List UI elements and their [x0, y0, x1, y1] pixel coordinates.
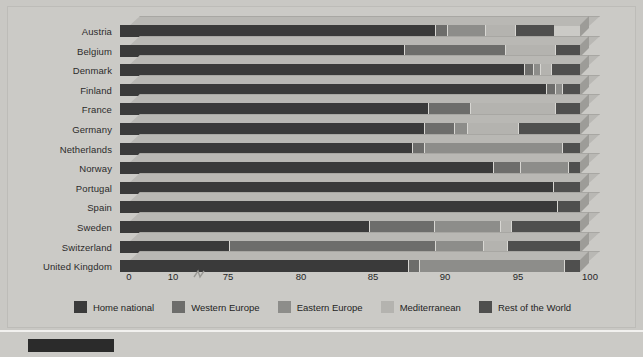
category-label: Germany	[72, 124, 112, 135]
category-label: Denmark	[73, 65, 112, 76]
axis-tick-label: 90	[440, 271, 451, 282]
axis-tick-label: 95	[513, 271, 524, 282]
legend-label: Mediterranean	[400, 302, 461, 313]
legend-swatch-icon	[74, 301, 87, 313]
axis-tick-label: 75	[223, 271, 234, 282]
legend-item[interactable]: Mediterranean	[381, 301, 461, 313]
category-label: Portugal	[76, 183, 112, 194]
legend-item[interactable]: Eastern Europe	[278, 301, 363, 313]
legend-swatch-icon	[278, 301, 291, 313]
legend-item[interactable]: Rest of the World	[479, 301, 571, 313]
chart-figure: AustriaBelgiumDenmarkFinlandFranceGerman…	[7, 6, 636, 328]
category-label: Netherlands	[60, 144, 112, 155]
legend-label: Eastern Europe	[297, 302, 363, 313]
legend-swatch-icon	[381, 301, 394, 313]
category-label: Finland	[80, 85, 112, 96]
axis-break-icon	[192, 268, 207, 280]
legend-label: Western Europe	[191, 302, 259, 313]
axis-tick-label: 80	[296, 271, 307, 282]
stacked-bars-container	[120, 7, 637, 269]
axis-tick-label: 85	[368, 271, 379, 282]
category-label: Belgium	[77, 46, 112, 57]
screenshot-root: AustriaBelgiumDenmarkFinlandFranceGerman…	[0, 0, 643, 357]
category-label: Spain	[87, 202, 112, 213]
category-label: France	[82, 104, 112, 115]
chart-legend: Home nationalWestern EuropeEastern Europ…	[8, 295, 637, 319]
category-label: Sweden	[77, 222, 112, 233]
plot-area: AustriaBelgiumDenmarkFinlandFranceGerman…	[8, 7, 637, 269]
category-axis-labels: AustriaBelgiumDenmarkFinlandFranceGerman…	[8, 7, 116, 269]
legend-label: Rest of the World	[498, 302, 571, 313]
category-label: Switzerland	[62, 242, 112, 253]
legend-item[interactable]: Home national	[74, 301, 154, 313]
axis-tick-label: 100	[582, 271, 598, 282]
legend-item[interactable]: Western Europe	[172, 301, 259, 313]
footer-chip	[28, 339, 114, 352]
legend-swatch-icon	[172, 301, 185, 313]
axis-tick-label: 10	[168, 271, 179, 282]
category-label: Norway	[79, 163, 112, 174]
legend-swatch-icon	[479, 301, 492, 313]
category-label: Austria	[82, 26, 112, 37]
category-label: United Kingdom	[43, 261, 112, 272]
legend-label: Home national	[93, 302, 154, 313]
axis-tick-label: 0	[126, 271, 131, 282]
value-axis: 0107580859095100	[120, 269, 635, 291]
